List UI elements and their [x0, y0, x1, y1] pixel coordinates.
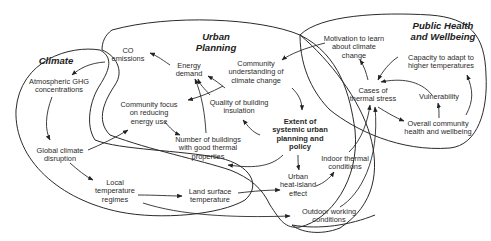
- node-energy-demand: Energydemand: [176, 62, 203, 79]
- node-vulnerability: Vulnerability: [419, 93, 459, 101]
- node-global-climate-disruption: Global climatedisruption: [37, 147, 84, 164]
- edge-overall-capacity: [466, 75, 472, 115]
- node-atmospheric-ghg: Atmospheric GHGconcentrations: [29, 78, 89, 95]
- node-community-focus: Community focuson reducingenergy use: [120, 101, 177, 126]
- edge-motiv-cund: [282, 43, 325, 60]
- node-cases-thermal-stress: Cases ofthermal stress: [350, 87, 396, 104]
- edge-nbuild-energy: [195, 79, 206, 133]
- edge-gcd-ltr: [70, 163, 93, 180]
- node-capacity-to-adapt: Capacity to adapt tohigher temperatures: [408, 54, 474, 71]
- edge-ghg-gcd: [46, 97, 52, 140]
- node-quality-building-insulation: Quality of buildinginsulation: [210, 99, 269, 116]
- edge-lst-uhi: [238, 190, 280, 193]
- region-title-public-health: Public Healthand Wellbeing: [411, 20, 476, 42]
- node-urban-heat-island: Urbanheat-islandeffect: [280, 173, 316, 198]
- node-indoor-thermal-conditions: Indoor thermalconditions: [321, 155, 369, 172]
- node-outdoor-working-conditions: Outdoor workingconditions: [302, 208, 356, 225]
- node-community-understanding: Communityunderstanding ofclimate change: [228, 60, 283, 85]
- region-title-climate: Climate: [39, 55, 74, 66]
- edge-capacity-cases: [378, 57, 398, 80]
- edge-extent-qbi: [243, 120, 260, 135]
- causal-loop-diagram: Climate UrbanPlanning Public Healthand W…: [0, 0, 491, 241]
- edge-cases-motiv: [360, 60, 368, 80]
- edge-cases-overall: [378, 107, 404, 121]
- node-number-of-buildings: Number of buildingswith good thermalprop…: [175, 136, 241, 161]
- node-land-surface-temperature: Land surfacetemperature: [189, 188, 232, 205]
- edge-ltr-lst: [138, 195, 182, 196]
- node-extent-systemic-urban-planning: Extent ofsystemic urbanplanning andpolic…: [272, 118, 328, 152]
- node-overall-community-health: Overall communityhealth and wellbeing: [404, 120, 471, 137]
- edge-overall-vuln: [438, 103, 439, 118]
- edge-uhi-indoor: [316, 172, 334, 186]
- edge-ltr-outdoor: [143, 203, 290, 217]
- edge-energy-co: [150, 53, 170, 65]
- node-co-emissions: COemissions: [112, 47, 145, 64]
- edge-extent-uhi: [298, 155, 299, 170]
- node-motivation-to-learn: Motivation to learnabout climatechange: [324, 35, 384, 60]
- edge-co-ghg: [72, 62, 105, 75]
- node-local-temperature-regimes: Localtemperatureregimes: [95, 179, 135, 204]
- edge-cund-extent: [292, 88, 302, 110]
- region-title-urban-planning: UrbanPlanning: [196, 31, 237, 53]
